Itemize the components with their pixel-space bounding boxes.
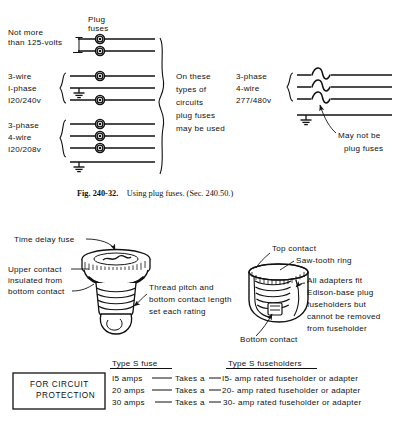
time-delay-fuse-leader: [86, 239, 115, 250]
circuit2-label-line1: 3-wire: [8, 72, 32, 81]
center-note-line1: On these: [176, 72, 211, 81]
bottom-contact-label: Bottom contact: [240, 335, 298, 344]
table-header-right: Type S fuseholders: [228, 359, 302, 368]
row1-connector: Takes a: [175, 374, 205, 383]
fuse-symbol: [95, 119, 104, 128]
thread-pitch-leader: [134, 294, 147, 306]
all-adapters-label-line5: from fuseholder: [307, 324, 367, 333]
saw-tooth-ring-label: Saw-tooth ring: [296, 256, 352, 265]
fuse-symbol: [95, 34, 104, 43]
row3-holder: 30- amp rated fuseholder or adapter: [223, 398, 361, 407]
upper-contact-label-line3: bottom contact: [8, 287, 65, 296]
circuit3-label-line1: 3-phase: [8, 121, 39, 130]
ground-symbol: [301, 115, 312, 125]
circuits-group-brace: [159, 38, 164, 174]
fuse-symbol: [95, 71, 104, 80]
all-adapters-label-line1: All adapters fit: [307, 276, 363, 285]
ground-symbol: [74, 162, 85, 172]
fuse-symbol: [95, 143, 104, 152]
for-circuit-protection-line2: PROTECTION: [36, 391, 95, 400]
plug-fuses-heading-line1: Plug: [88, 15, 105, 24]
row3-fuse: 30 amps: [112, 398, 145, 407]
right-circuit-brace: [287, 73, 293, 101]
table-header-left: Type S fuse: [112, 359, 158, 368]
all-adapters-label-line4: cannot be removed: [307, 312, 381, 321]
center-note-line5: may be used: [176, 124, 225, 133]
center-note-line2: types of: [176, 85, 207, 94]
thread-pitch-label-line1: Thread pitch and: [149, 283, 214, 292]
all-adapters-label-line2: Edison-base plug: [307, 288, 374, 297]
figure-caption-bold: Fig. 240-32.: [77, 189, 118, 198]
thread-pitch-label-line2: bottom contact length: [149, 295, 232, 304]
type-s-fuseholder-illustration: [249, 264, 308, 322]
fuse-symbol: [95, 131, 104, 140]
row1-holder: I5- amp rated fuseholder or adapter: [222, 374, 358, 383]
row2-holder: 20- amp rated fuseholder or adapter: [222, 386, 360, 395]
may-not-be-plug-fuses-leader: [320, 105, 336, 133]
thread-pitch-label-line3: set each rating: [149, 307, 206, 316]
row2-connector: Takes a: [175, 386, 205, 395]
top-contact-label: Top contact: [272, 244, 317, 253]
circuit3-label-line3: I20/208v: [8, 145, 42, 154]
right-circuit-label-line3: 277/480v: [236, 96, 272, 105]
circuit1-label-line1: Not more: [8, 28, 44, 37]
circuit2-brace: [60, 73, 66, 103]
center-note-line4: plug fuses: [176, 111, 215, 120]
figure-caption: Fig. 240-32. Using plug fuses. (Sec. 240…: [77, 182, 233, 199]
circuit2-label-line2: I-phase: [8, 84, 37, 93]
figure-caption-rest: Using plug fuses. (Sec. 240.50.): [127, 189, 234, 198]
all-adapters-label-line3: fuseholders but: [307, 300, 367, 309]
time-delay-fuse-label: Time delay fuse: [14, 235, 75, 244]
table-row: 30 amps Takes a 30- amp rated fuseholder…: [112, 398, 361, 407]
right-circuit-label-line1: 3-phase: [236, 72, 267, 81]
figure-sheet: Plug fuses Not more than 125-volts 3-wir…: [0, 0, 397, 426]
ground-symbol: [74, 88, 85, 98]
table-row: I5 amps Takes a I5- amp rated fuseholder…: [112, 374, 358, 383]
row1-fuse: I5 amps: [112, 374, 143, 383]
circuit2-label-line3: I20/240v: [8, 96, 42, 105]
fuse-symbol: [95, 95, 104, 104]
plug-fuses-figure: Plug fuses Not more than 125-volts 3-wir…: [0, 0, 397, 426]
center-note-line3: circuits: [176, 98, 203, 107]
fuse-symbol: [95, 46, 104, 55]
type-s-fuse-illustration: [82, 250, 150, 335]
right-circuit-label-line2: 4-wire: [236, 84, 260, 93]
may-not-be-callout-line1: May not be: [338, 131, 381, 140]
may-not-be-callout-line2: plug fuses: [344, 144, 383, 153]
plug-fuses-heading-line2: fuses: [88, 24, 109, 33]
circuit3-brace: [60, 120, 66, 157]
upper-contact-label-line1: Upper contact: [8, 265, 62, 274]
upper-contact-label-line2: insulated from: [8, 276, 62, 285]
upper-contact-leader-2: [72, 284, 94, 291]
for-circuit-protection-line1: FOR CIRCUIT: [30, 380, 89, 389]
circuit1-label-line2: than 125-volts: [8, 38, 62, 47]
row3-connector: Takes a: [175, 398, 205, 407]
circuit3-label-line2: 4-wire: [8, 133, 32, 142]
table-row: 20 amps Takes a 20- amp rated fuseholder…: [112, 386, 360, 395]
row2-fuse: 20 amps: [112, 386, 145, 395]
